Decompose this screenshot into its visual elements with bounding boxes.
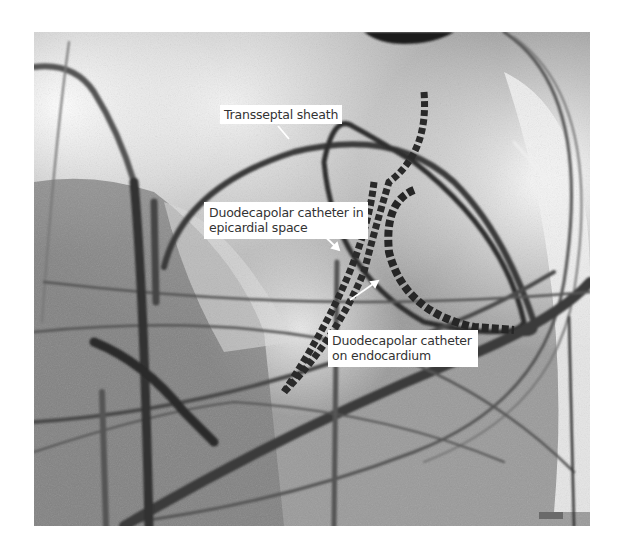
- fluoroscopy-image: Transseptal sheath Duodecapolar catheter…: [34, 32, 590, 526]
- label-line: epicardial space: [209, 220, 364, 235]
- label-line: Transseptal sheath: [224, 107, 338, 122]
- label-endocardial-catheter: Duodecapolar catheter on endocardium: [328, 330, 478, 367]
- label-epicardial-catheter: Duodecapolar catheter in epicardial spac…: [204, 202, 368, 239]
- label-line: Duodecapolar catheter in: [209, 205, 364, 220]
- label-line: Duodecapolar catheter: [332, 333, 472, 348]
- label-line: on endocardium: [332, 348, 472, 363]
- label-transseptal-sheath: Transseptal sheath: [220, 105, 342, 124]
- scale-bar: [539, 512, 563, 519]
